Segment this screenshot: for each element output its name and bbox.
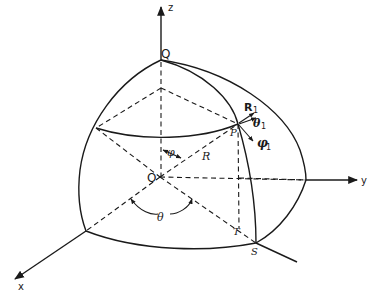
radius-label: R xyxy=(201,150,210,163)
diagram-svg: z y x Q O P S T R φ θ R 1 θ 1 φ 1 xyxy=(0,0,374,294)
x-axis xyxy=(15,177,160,279)
spherical-coordinates-diagram: z y x Q O P S T R φ θ R 1 θ 1 φ 1 xyxy=(0,0,374,294)
svg-text:1: 1 xyxy=(261,122,266,131)
unit-vector-phi1-label: φ 1 xyxy=(257,136,271,152)
svg-text:R: R xyxy=(244,101,253,114)
point-s-label: S xyxy=(251,246,258,257)
y-axis-label: y xyxy=(361,175,367,186)
svg-text:1: 1 xyxy=(266,143,271,152)
sphere-octant-outline xyxy=(79,60,306,262)
svg-text:θ: θ xyxy=(253,117,261,130)
z-axis-label: z xyxy=(168,2,173,13)
unit-vector-r1-label: R 1 xyxy=(244,101,258,115)
phi-angle-label: φ xyxy=(167,146,175,159)
point-p-label: P xyxy=(229,127,237,138)
theta-angle-label: θ xyxy=(157,211,164,224)
unit-vector-theta1-label: θ 1 xyxy=(253,117,266,131)
point-q-label: Q xyxy=(161,47,170,61)
origin-label: O xyxy=(147,171,156,185)
svg-text:1: 1 xyxy=(253,106,258,115)
construction-lines xyxy=(96,88,306,243)
x-axis-label: x xyxy=(18,281,24,292)
